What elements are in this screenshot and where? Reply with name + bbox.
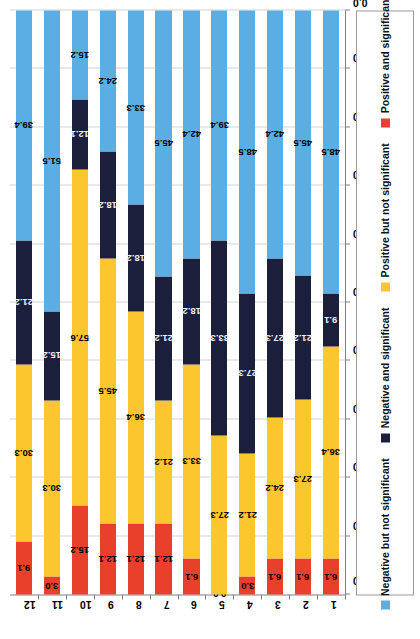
- bar-value-label: 12.1: [126, 554, 145, 564]
- bar-value-label: 6.1: [297, 571, 310, 581]
- bar-segment[interactable]: 27.3: [239, 293, 255, 452]
- bar-segment[interactable]: 48.5: [323, 10, 339, 293]
- bar-stack[interactable]: 12.121.221.245.5: [155, 10, 171, 594]
- bar-segment[interactable]: 12.1: [155, 523, 171, 594]
- bar-segment[interactable]: 3.0: [239, 576, 255, 594]
- bar-segment[interactable]: 21.2: [239, 453, 255, 577]
- bar-segment[interactable]: 57.6: [72, 169, 88, 505]
- bar-segment[interactable]: 15.2: [72, 10, 88, 99]
- bar-stack[interactable]: 0.027.333.339.4: [211, 10, 227, 594]
- category-label: 8: [136, 598, 142, 610]
- category-label: 3: [275, 598, 281, 610]
- category-label: 9: [108, 598, 114, 610]
- bar-segment[interactable]: 27.3: [211, 435, 227, 594]
- bar-value-label: 24.2: [266, 483, 285, 493]
- bar-segment[interactable]: 15.2: [72, 505, 88, 594]
- bar-value-label: 51.5: [43, 156, 62, 166]
- bar-segment[interactable]: 18.2: [128, 205, 144, 311]
- bar-stack[interactable]: 6.136.49.148.5: [323, 10, 339, 594]
- legend-item[interactable]: Positive and significant: [379, 0, 391, 127]
- legend-item[interactable]: Negative but not significant: [379, 458, 391, 610]
- bar-value-label: 30.3: [15, 448, 34, 458]
- bar-segment[interactable]: 21.2: [295, 275, 311, 399]
- bar-value-label: 6.1: [185, 571, 198, 581]
- bar-segment[interactable]: 51.5: [44, 10, 60, 311]
- bar-segment[interactable]: 6.1: [295, 558, 311, 594]
- bar-segment[interactable]: 48.5: [239, 10, 255, 293]
- bar-segment[interactable]: 30.3: [44, 400, 60, 577]
- bar-stack[interactable]: 3.021.227.348.5: [239, 10, 255, 594]
- bar-stack[interactable]: 12.136.418.233.3: [128, 10, 144, 594]
- value-axis-tick: [345, 184, 350, 185]
- bar-segment[interactable]: 6.1: [323, 558, 339, 594]
- bar-stack[interactable]: 9.130.321.239.4: [16, 10, 32, 594]
- legend-item[interactable]: Negative and significant: [379, 307, 391, 442]
- bar-segment[interactable]: 33.3: [128, 10, 144, 204]
- bar-segment[interactable]: 12.1: [100, 523, 116, 594]
- bar-segment[interactable]: 27.3: [295, 399, 311, 558]
- bar-segment[interactable]: 39.4: [211, 10, 227, 240]
- value-axis-tick: [345, 535, 350, 536]
- bar-segment[interactable]: 6.1: [267, 558, 283, 594]
- bar-value-label: 15.2: [43, 350, 62, 360]
- bar-segment[interactable]: 9.1: [16, 541, 32, 594]
- bar-value-label: 12.1: [154, 554, 173, 564]
- bar-segment[interactable]: 45.5: [100, 258, 116, 524]
- bar-value-label: 21.2: [154, 457, 173, 467]
- bar-value-label: 48.5: [238, 147, 257, 157]
- legend-swatch: [381, 600, 390, 609]
- chart-frame: 100.090.080.070.060.050.040.030.020.010.…: [0, 0, 420, 639]
- bar-segment[interactable]: 18.2: [100, 151, 116, 257]
- bar-segment[interactable]: 30.3: [16, 364, 32, 541]
- bar-segment[interactable]: 18.2: [183, 258, 199, 364]
- bar-segment[interactable]: 15.2: [44, 311, 60, 400]
- bar-value-label: 18.2: [126, 253, 145, 263]
- bar-segment[interactable]: 42.4: [183, 10, 199, 258]
- bar-stack[interactable]: 6.127.321.245.5: [295, 10, 311, 594]
- legend-label: Negative and significant: [379, 307, 391, 428]
- bar-segment[interactable]: 12.1: [72, 99, 88, 170]
- bar-value-label: 24.2: [98, 76, 117, 86]
- category-axis-tick: [345, 594, 346, 599]
- bar-value-label: 39.4: [15, 120, 34, 130]
- bar-segment[interactable]: 33.3: [211, 240, 227, 434]
- stacked-bar-chart: 100.090.080.070.060.050.040.030.020.010.…: [0, 0, 420, 639]
- bar-segment[interactable]: 45.5: [295, 10, 311, 275]
- legend-swatch: [381, 282, 390, 291]
- bar-segment[interactable]: 39.4: [16, 10, 32, 240]
- bar-value-label: 15.2: [71, 545, 90, 555]
- bar-stack[interactable]: 3.030.315.251.5: [44, 10, 60, 594]
- bar-value-label: 6.1: [324, 571, 337, 581]
- bar-segment[interactable]: 3.0: [44, 576, 60, 594]
- bar-segment[interactable]: 6.1: [183, 558, 199, 594]
- bar-segment[interactable]: 24.2: [267, 417, 283, 558]
- category-axis-tick: [38, 594, 39, 599]
- bar-value-label: 27.3: [266, 333, 285, 343]
- bar-segment[interactable]: 21.2: [155, 276, 171, 400]
- bar-value-label: 33.3: [210, 333, 229, 343]
- bar-segment[interactable]: 33.3: [183, 364, 199, 558]
- value-axis-tick: [345, 67, 350, 68]
- bar-segment[interactable]: 27.3: [267, 258, 283, 417]
- bar-stack[interactable]: 6.133.318.242.4: [183, 10, 199, 594]
- bar-value-label: 45.5: [98, 386, 117, 396]
- bar-segment[interactable]: 9.1: [323, 293, 339, 346]
- bar-value-label: 45.5: [294, 138, 313, 148]
- category-label: 7: [164, 598, 170, 610]
- bar-segment[interactable]: 12.1: [128, 523, 144, 594]
- bar-segment[interactable]: 45.5: [155, 10, 171, 276]
- bar-segment[interactable]: 36.4: [323, 346, 339, 558]
- bar-stack[interactable]: 12.145.518.224.2: [100, 10, 116, 594]
- bar-value-label: 9.1: [17, 563, 30, 573]
- legend-item[interactable]: Positive but not significant: [379, 143, 391, 291]
- bar-value-label: 21.2: [294, 333, 313, 343]
- bar-segment[interactable]: 42.4: [267, 10, 283, 258]
- category-axis-tick: [261, 594, 262, 599]
- bar-stack[interactable]: 15.257.612.115.2: [72, 10, 88, 594]
- bar-segment[interactable]: 24.2: [100, 10, 116, 151]
- bar-stack[interactable]: 6.124.227.342.4: [267, 10, 283, 594]
- bar-segment[interactable]: 36.4: [128, 311, 144, 524]
- bar-value-label: 45.5: [154, 138, 173, 148]
- bar-segment[interactable]: 21.2: [16, 240, 32, 364]
- bar-segment[interactable]: 21.2: [155, 400, 171, 524]
